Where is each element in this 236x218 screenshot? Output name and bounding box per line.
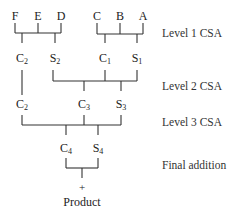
input-d: D	[57, 10, 66, 22]
level1-output-s1: S1	[132, 52, 143, 64]
product-result: Product	[63, 196, 100, 208]
csa-tree-diagram: F E D C B A C2 S2 C1 S1 C2 C3 S3 C4 S4 +…	[0, 0, 236, 218]
input-e: E	[34, 10, 41, 22]
input-c: C	[93, 10, 101, 22]
label-level3-csa: Level 3 CSA	[162, 116, 222, 128]
level3-csa-bracket	[22, 115, 121, 135]
plus-operator: +	[79, 182, 85, 193]
level3-output-s4: S4	[93, 142, 104, 154]
level1-output-c2: C2	[16, 52, 28, 64]
level1-csa-right-bracket	[97, 23, 143, 43]
level2-output-s3: S3	[116, 98, 127, 110]
label-final-addition: Final addition	[162, 159, 226, 171]
level1-output-s2: S2	[50, 52, 61, 64]
input-f: F	[12, 10, 19, 22]
level2-csa-bracket	[53, 70, 137, 91]
input-a: A	[139, 10, 148, 22]
level2-output-c3: C3	[78, 98, 90, 110]
level3-output-c4: C4	[60, 142, 72, 154]
input-b: B	[116, 10, 124, 22]
label-level2-csa: Level 2 CSA	[162, 80, 222, 92]
label-level1-csa: Level 1 CSA	[162, 27, 222, 39]
level1-csa-left-bracket	[15, 23, 61, 43]
level2-output-c2: C2	[16, 98, 28, 110]
final-addition-bracket	[66, 158, 98, 178]
level1-output-c1: C1	[99, 52, 111, 64]
